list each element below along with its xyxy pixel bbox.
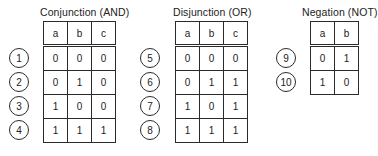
cell: 1	[200, 71, 224, 95]
table-row: 0 0 0	[176, 46, 248, 71]
table-row: 0 0 0	[44, 46, 116, 71]
row-number-circle: 6	[140, 72, 160, 92]
cell: 0	[176, 71, 200, 95]
truth-table-grid: a b c 0 0 0 0 1 1 1 0 1 1 1 1	[175, 21, 248, 143]
table-row: 1 1 1	[176, 119, 248, 143]
cell: 0	[68, 46, 92, 71]
cell: 1	[68, 71, 92, 95]
cell: 0	[44, 71, 68, 95]
column-header: a	[176, 22, 200, 46]
column-header: b	[68, 22, 92, 46]
table-row: 1 1 1	[44, 119, 116, 143]
table-title: Negation (NOT)	[302, 6, 378, 18]
column-header: b	[335, 22, 359, 46]
cell: 1	[224, 119, 248, 143]
column-header: a	[44, 22, 68, 46]
row-number-circle: 5	[140, 48, 160, 68]
cell: 1	[68, 119, 92, 143]
cell: 0	[335, 71, 359, 95]
column-header: c	[92, 22, 116, 46]
cell: 0	[92, 46, 116, 71]
cell: 0	[68, 95, 92, 119]
row-number-circle: 1	[9, 48, 29, 68]
cell: 1	[224, 95, 248, 119]
cell: 1	[176, 119, 200, 143]
table-row: 0 1 1	[176, 71, 248, 95]
cell: 1	[224, 71, 248, 95]
row-number-circle: 4	[9, 120, 29, 140]
cell: 0	[44, 46, 68, 71]
table-title: Conjunction (AND)	[40, 6, 129, 18]
cell: 0	[176, 46, 200, 71]
table-title: Disjunction (OR)	[173, 6, 252, 18]
truth-table-grid: a b 0 1 1 0	[310, 21, 359, 95]
table-row: 1 0	[311, 71, 359, 95]
cell: 1	[176, 95, 200, 119]
cell: 0	[92, 95, 116, 119]
table-row: 0 1 0	[44, 71, 116, 95]
cell: 1	[311, 71, 335, 95]
row-number-circle: 7	[140, 96, 160, 116]
column-header: b	[200, 22, 224, 46]
row-number-circle: 9	[276, 48, 296, 68]
cell: 1	[335, 46, 359, 71]
table-row: 1 0 1	[176, 95, 248, 119]
table-row: 0 1	[311, 46, 359, 71]
cell: 0	[200, 46, 224, 71]
cell: 1	[200, 119, 224, 143]
cell: 1	[92, 119, 116, 143]
table-row: 1 0 0	[44, 95, 116, 119]
cell: 0	[200, 95, 224, 119]
row-number-circle: 8	[140, 120, 160, 140]
row-number-circle: 2	[9, 72, 29, 92]
cell: 0	[311, 46, 335, 71]
column-header: a	[311, 22, 335, 46]
cell: 0	[224, 46, 248, 71]
row-number-circle: 3	[9, 96, 29, 116]
cell: 0	[92, 71, 116, 95]
cell: 1	[44, 119, 68, 143]
cell: 1	[44, 95, 68, 119]
truth-table-grid: a b c 0 0 0 0 1 0 1 0 0 1 1 1	[43, 21, 116, 143]
column-header: c	[224, 22, 248, 46]
row-number-circle: 10	[276, 72, 296, 92]
